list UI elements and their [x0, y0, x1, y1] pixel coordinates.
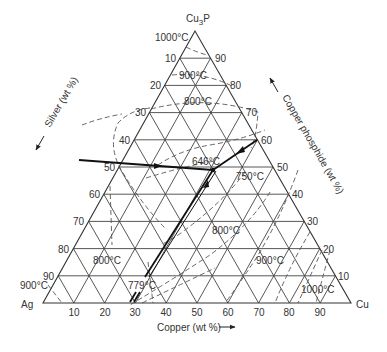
- vertex-cu3p-label: Cu3P: [186, 13, 210, 27]
- svg-text:10: 10: [68, 307, 80, 318]
- svg-text:20: 20: [99, 307, 111, 318]
- vertex-ag-label: Ag: [21, 299, 33, 310]
- svg-text:60: 60: [222, 307, 234, 318]
- svg-text:800°C: 800°C: [184, 96, 212, 107]
- svg-text:779°C: 779°C: [128, 280, 156, 291]
- svg-text:900°C: 900°C: [179, 70, 207, 81]
- svg-text:30: 30: [135, 107, 147, 118]
- svg-text:30: 30: [129, 307, 141, 318]
- svg-text:1000°C: 1000°C: [301, 284, 334, 295]
- isotherm-800-top: [151, 103, 258, 148]
- svg-text:20: 20: [150, 80, 162, 91]
- svg-text:70: 70: [253, 307, 265, 318]
- svg-text:30: 30: [307, 216, 319, 227]
- isotherm-900-right: [225, 170, 298, 303]
- ternary-phase-diagram: Cu3P Ag Cu 10 20 30 40 50 60 70 80 90 90…: [0, 0, 387, 352]
- svg-text:50: 50: [104, 162, 116, 173]
- isotherm-900-left: [48, 285, 62, 303]
- svg-text:1000°C: 1000°C: [155, 32, 188, 43]
- bottom-axis-ticks: 10 20 30 40 50 60 70 80 90: [68, 307, 326, 318]
- valley-ag-cu: [145, 170, 213, 277]
- svg-text:70: 70: [73, 216, 85, 227]
- svg-text:80: 80: [283, 307, 295, 318]
- svg-text:90: 90: [215, 53, 227, 64]
- svg-text:40: 40: [160, 307, 172, 318]
- svg-text:70: 70: [246, 107, 258, 118]
- left-axis-title: Silver (wt %): [42, 75, 80, 129]
- grid-line: [74, 58, 211, 303]
- svg-text:60: 60: [89, 189, 101, 200]
- svg-text:900°C: 900°C: [256, 255, 284, 266]
- grid-line: [58, 276, 74, 303]
- svg-text:40: 40: [119, 135, 131, 146]
- svg-text:80: 80: [58, 244, 70, 255]
- svg-text:40: 40: [292, 189, 304, 200]
- isotherm-right-edge: [298, 250, 322, 303]
- right-axis-arrow-icon: [270, 78, 278, 92]
- ternary-eutectic-point: [211, 168, 215, 172]
- svg-text:90: 90: [314, 307, 326, 318]
- svg-text:800°C: 800°C: [93, 255, 121, 266]
- grid-line: [149, 113, 258, 303]
- svg-text:800°C: 800°C: [212, 225, 240, 236]
- svg-text:900°C: 900°C: [20, 280, 48, 291]
- svg-text:50: 50: [277, 162, 289, 173]
- svg-text:50: 50: [191, 307, 203, 318]
- svg-text:20: 20: [323, 244, 335, 255]
- svg-text:10: 10: [338, 271, 350, 282]
- left-axis-arrow-icon: [36, 136, 44, 150]
- svg-text:80: 80: [230, 80, 242, 91]
- isotherm-1000-top: [186, 47, 207, 55]
- svg-text:646°C: 646°C: [192, 156, 220, 167]
- vertex-cu-label: Cu: [356, 299, 369, 310]
- svg-text:10: 10: [165, 53, 177, 64]
- bottom-axis-title: Copper (wt %): [157, 322, 221, 333]
- right-axis-title: Copper phosphide (wt %): [280, 93, 346, 196]
- svg-text:60: 60: [261, 135, 273, 146]
- arrow-on-ag-valley: [154, 163, 162, 169]
- arrow-on-cu-valley: [236, 146, 245, 154]
- svg-text:750°C: 750°C: [236, 171, 264, 182]
